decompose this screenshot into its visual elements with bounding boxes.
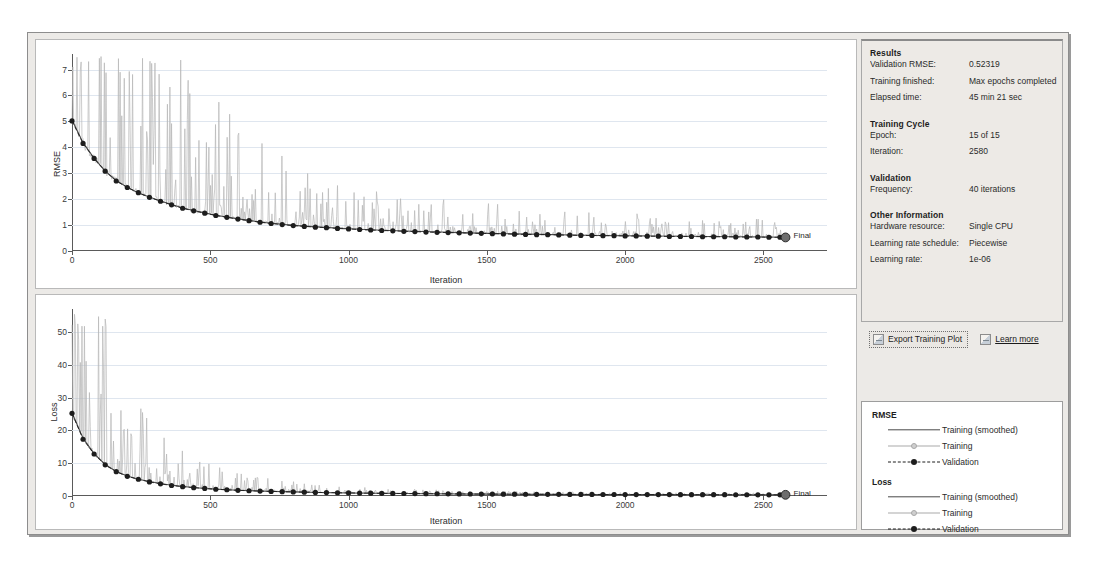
info-key: Hardware resource:: [870, 221, 969, 231]
export-training-plot-label: Export Training Plot: [888, 334, 962, 344]
training-progress-window: RMSE Iteration 0123456705001000150020002…: [27, 32, 1069, 535]
validation-marker: [545, 492, 550, 497]
validation-marker: [390, 491, 395, 496]
export-training-plot-button[interactable]: Export Training Plot: [869, 331, 968, 348]
validation-marker: [401, 229, 406, 234]
info-row-training-finished: Training finished: Max epochs completed: [870, 76, 1054, 93]
info-value: Single CPU: [969, 221, 1013, 231]
info-key: Validation RMSE:: [870, 59, 969, 69]
info-value: Max epochs completed: [969, 76, 1056, 86]
validation-marker: [92, 451, 97, 456]
rmse-plot-panel: RMSE Iteration 0123456705001000150020002…: [35, 39, 857, 289]
rmse-y-axis-label: RMSE: [52, 151, 62, 177]
help-book-icon: [980, 334, 991, 345]
validation-marker: [578, 492, 583, 497]
info-key: Learning rate schedule:: [870, 238, 969, 248]
x-tick-label: 2000: [616, 255, 635, 265]
validation-marker: [103, 462, 108, 467]
validation-marker: [302, 490, 307, 495]
validation-marker: [556, 492, 561, 497]
x-tick-label: 2500: [754, 500, 773, 510]
x-tick-label: 500: [203, 255, 217, 265]
validation-marker: [357, 490, 362, 495]
validation-marker: [346, 490, 351, 495]
validation-marker: [600, 492, 605, 497]
legend-item: Validation: [872, 521, 1054, 537]
validation-marker: [291, 489, 296, 494]
validation-marker: [479, 491, 484, 496]
validation-marker: [766, 235, 771, 240]
info-key: Learning rate:: [870, 254, 969, 264]
legend-group-title-rmse: RMSE: [872, 410, 1054, 420]
validation-marker: [534, 492, 539, 497]
info-row-learning-rate-schedule: Learning rate schedule: Piecewise: [870, 238, 1054, 255]
validation-marker: [434, 491, 439, 496]
validation-marker: [224, 215, 229, 220]
validation-marker: [368, 491, 373, 496]
validation-marker: [678, 492, 683, 497]
validation-marker: [379, 491, 384, 496]
info-key: Epoch:: [870, 130, 969, 140]
learn-more-link[interactable]: Learn more: [980, 334, 1038, 345]
validation-marker: [656, 492, 661, 497]
validation-marker: [567, 233, 572, 238]
validation-marker: [103, 169, 108, 174]
training-noisy-line: [72, 57, 786, 238]
validation-marker: [523, 492, 528, 497]
legend-swatch-solid-dark: [886, 425, 942, 435]
validation-marker: [423, 229, 428, 234]
x-tick-label: 0: [70, 500, 75, 510]
legend-item: Training: [872, 438, 1054, 454]
legend-item: Validation: [872, 454, 1054, 470]
legend-swatch-solid-light: [886, 441, 942, 451]
validation-marker: [678, 234, 683, 239]
legend-swatch-dashed-dot: [886, 457, 942, 467]
validation-marker: [700, 492, 705, 497]
validation-marker: [766, 492, 771, 497]
validation-marker: [534, 232, 539, 237]
validation-marker: [191, 485, 196, 490]
validation-marker: [434, 230, 439, 235]
validation-marker: [457, 230, 462, 235]
validation-marker: [235, 488, 240, 493]
validation-heading: Validation: [870, 173, 1054, 183]
training-smoothed-line: [72, 413, 786, 495]
plot-legend: RMSE Training (smoothed) Training Valida…: [861, 401, 1063, 530]
training-info-panel: Results Validation RMSE: 0.52319 Trainin…: [861, 39, 1063, 322]
validation-marker: [501, 492, 506, 497]
action-button-row: Export Training Plot Learn more: [861, 326, 1063, 352]
training-noisy-line: [72, 314, 786, 495]
validation-marker: [269, 489, 274, 494]
validation-marker: [446, 491, 451, 496]
y-tick-label: 0: [62, 491, 67, 501]
validation-marker: [589, 233, 594, 238]
validation-marker: [744, 234, 749, 239]
legend-label: Training: [942, 441, 972, 451]
validation-marker: [501, 231, 506, 236]
validation-marker: [191, 208, 196, 213]
final-label: Final: [794, 231, 811, 240]
learn-more-label: Learn more: [995, 334, 1038, 344]
validation-marker: [744, 492, 749, 497]
info-key: Iteration:: [870, 146, 969, 156]
validation-marker: [545, 232, 550, 237]
y-tick-label: 50: [58, 327, 67, 337]
validation-marker: [246, 488, 251, 493]
validation-marker: [733, 234, 738, 239]
legend-label: Training: [942, 508, 972, 518]
validation-marker: [257, 220, 262, 225]
validation-marker: [280, 489, 285, 494]
info-value: 15 of 15: [969, 130, 1000, 140]
validation-marker: [645, 234, 650, 239]
validation-marker: [623, 233, 628, 238]
validation-marker: [80, 437, 85, 442]
info-value: 40 iterations: [969, 184, 1015, 194]
validation-marker: [611, 233, 616, 238]
info-row-iteration: Iteration: 2580: [870, 146, 1054, 163]
info-row-hardware-resource: Hardware resource: Single CPU: [870, 221, 1054, 238]
validation-marker: [291, 223, 296, 228]
validation-marker: [468, 231, 473, 236]
info-key: Frequency:: [870, 184, 969, 194]
info-row-validation-rmse: Validation RMSE: 0.52319: [870, 59, 1054, 76]
validation-marker: [180, 206, 185, 211]
